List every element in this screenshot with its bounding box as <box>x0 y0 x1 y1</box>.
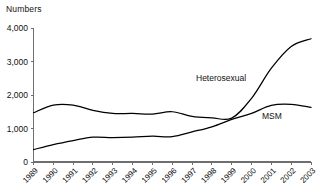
y-tick-label: 3,000 <box>7 57 29 67</box>
x-tick-label: 2002 <box>279 166 298 185</box>
y-axis: 01,0002,0003,0004,000 <box>7 23 34 167</box>
x-axis: 1989199019911992199319941995199619971998… <box>21 162 318 185</box>
x-tick-label: 2001 <box>259 166 278 185</box>
x-tick-label: 1993 <box>100 166 119 185</box>
x-tick-label: 1997 <box>180 166 199 185</box>
series-group <box>34 39 312 150</box>
y-tick-label: 2,000 <box>7 90 29 100</box>
x-tick-label: 1989 <box>21 166 40 185</box>
series-line-heterosexual <box>34 39 312 120</box>
y-tick-label: 4,000 <box>7 23 29 33</box>
x-tick-label: 1998 <box>199 166 218 185</box>
y-tick-label: 1,000 <box>7 124 29 134</box>
x-tick-label: 1990 <box>41 166 60 185</box>
series-label-heterosexual: Heterosexual <box>196 73 246 83</box>
y-tick-label: 0 <box>23 157 28 167</box>
x-tick-label: 2000 <box>239 166 258 185</box>
line-chart-plot: 01,0002,0003,0004,000 198919901991199219… <box>0 0 318 192</box>
x-tick-label: 1996 <box>160 166 179 185</box>
x-tick-label: 1994 <box>120 166 139 185</box>
x-tick-group: 1989199019911992199319941995199619971998… <box>21 162 318 185</box>
y-tick-group: 01,0002,0003,0004,000 <box>7 23 34 167</box>
chart-container: Numbers 01,0002,0003,0004,000 1989199019… <box>0 0 318 192</box>
x-tick-label: 1992 <box>80 166 99 185</box>
x-tick-label: 2003 <box>298 166 317 185</box>
series-label-msm: MSM <box>262 111 282 121</box>
x-tick-label: 1991 <box>61 166 80 185</box>
x-tick-label: 1999 <box>219 166 238 185</box>
x-tick-label: 1995 <box>140 166 159 185</box>
